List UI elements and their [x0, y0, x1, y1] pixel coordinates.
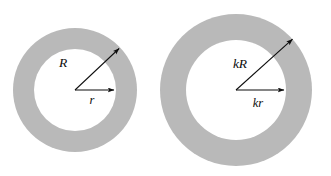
annuli-diagram: R r kR kr — [0, 0, 331, 176]
figure-container: R r kR kr — [0, 0, 331, 176]
left-inner-radius-label: r — [90, 93, 95, 107]
right-outer-radius-label: kR — [233, 56, 248, 71]
right-annulus-group: kR kr — [160, 14, 312, 166]
left-outer-radius-label: R — [58, 55, 68, 70]
left-annulus-group: R r — [13, 28, 137, 152]
right-inner-radius-label: kr — [253, 96, 264, 110]
